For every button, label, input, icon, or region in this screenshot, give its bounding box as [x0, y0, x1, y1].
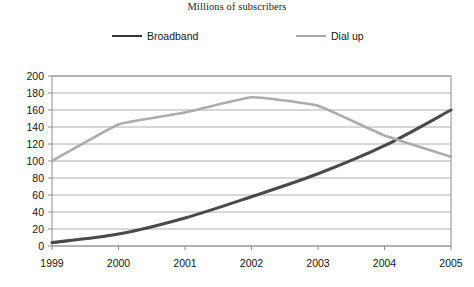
x-axis-tick-label: 2005: [439, 257, 463, 269]
y-axis-tick-label: 60: [32, 189, 44, 201]
x-axis-tick-labels: 1999200020012002200320042005: [40, 257, 463, 269]
series-line-dial-up: [52, 97, 451, 161]
axis-tick-marks: [48, 76, 451, 250]
x-axis-tick-label: 2000: [107, 257, 131, 269]
chart-container: Millions of subscribers Broadband Dial u…: [0, 0, 474, 287]
y-axis-tick-label: 200: [26, 70, 44, 82]
gridlines: [52, 76, 451, 246]
series-line-broadband: [52, 110, 451, 243]
y-axis-tick-label: 40: [32, 206, 44, 218]
y-axis-tick-label: 20: [32, 223, 44, 235]
y-axis-tick-label: 140: [26, 121, 44, 133]
x-axis-tick-label: 2002: [240, 257, 264, 269]
y-axis-tick-label: 160: [26, 104, 44, 116]
x-axis-tick-label: 1999: [40, 257, 64, 269]
x-axis-tick-label: 2001: [173, 257, 197, 269]
plot-area: 020406080100120140160180200 199920002001…: [0, 0, 474, 287]
y-axis-tick-label: 80: [32, 172, 44, 184]
y-axis-tick-label: 100: [26, 155, 44, 167]
y-axis-tick-labels: 020406080100120140160180200: [26, 70, 44, 252]
series-layer: [52, 97, 451, 242]
plot-svg: 020406080100120140160180200 199920002001…: [0, 0, 474, 287]
y-axis-tick-label: 120: [26, 138, 44, 150]
x-axis-tick-label: 2003: [306, 257, 330, 269]
y-axis-tick-label: 180: [26, 87, 44, 99]
x-axis-tick-label: 2004: [373, 257, 397, 269]
y-axis-tick-label: 0: [38, 240, 44, 252]
